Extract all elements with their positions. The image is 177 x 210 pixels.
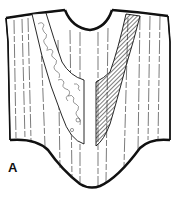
vestment-illustration <box>0 0 177 210</box>
figure-label: A <box>8 160 17 175</box>
garment-outline <box>6 10 170 188</box>
